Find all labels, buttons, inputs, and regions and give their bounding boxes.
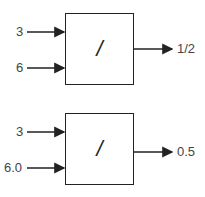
operator-box: /: [65, 13, 134, 85]
input-label-2: 6: [16, 61, 23, 75]
input-label-1: 3: [16, 25, 23, 39]
input-label-1: 3: [16, 125, 23, 139]
output-label: 0.5: [177, 145, 195, 159]
operator-symbol: /: [66, 136, 133, 162]
operator-box: /: [65, 113, 134, 185]
output-label: 1/2: [177, 42, 195, 56]
division-diagram-float: 3 6.0 / 0.5: [0, 100, 205, 197]
division-diagram-integer: 3 6 / 1/2: [0, 0, 205, 98]
operator-symbol: /: [66, 36, 133, 62]
input-label-2: 6.0: [4, 161, 22, 175]
